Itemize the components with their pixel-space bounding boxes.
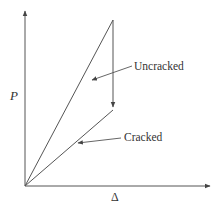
load-deflection-diagram: P Δ Uncracked Cracked [0,0,222,210]
uncracked-line [25,20,113,186]
cracked-label: Cracked [124,131,163,143]
cracked-leader-arrow [78,138,121,143]
y-axis-label: P [9,88,18,103]
uncracked-label: Uncracked [134,60,184,72]
uncracked-leader-arrow [92,66,132,80]
x-axis-label: Δ [111,190,119,204]
cracked-line [25,110,113,186]
